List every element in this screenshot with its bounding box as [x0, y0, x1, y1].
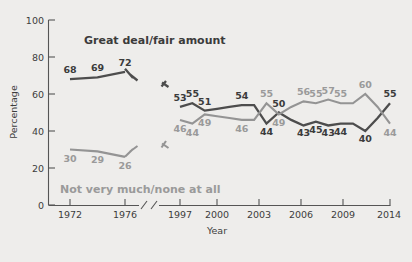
x-tick-label-2003: 2003: [247, 209, 271, 220]
series-b-annotation: Not very much/none at all: [60, 183, 221, 196]
data-label: 49: [272, 117, 285, 128]
x-axis-title: Year: [206, 225, 227, 236]
series-a-break-stub-left: [125, 69, 138, 81]
data-label: 26: [118, 160, 132, 171]
data-label: 72: [118, 57, 131, 68]
data-label: 55: [383, 88, 396, 99]
series-a-annotation: Great deal/fair amount: [84, 34, 226, 47]
x-axis-ticks: [70, 199, 390, 206]
data-label: 50: [272, 98, 286, 109]
x-tick-label-2006: 2006: [289, 209, 313, 220]
y-tick-label-100: 100: [26, 15, 44, 26]
data-label: 43: [322, 127, 335, 138]
data-label: 53: [173, 92, 186, 103]
data-label: 55: [260, 88, 273, 99]
data-label: 51: [198, 96, 211, 107]
data-label: 44: [334, 126, 348, 137]
y-tick-label-0: 0: [38, 200, 44, 211]
x-tick-label-1972: 1972: [58, 209, 82, 220]
x-tick-label-1976: 1976: [113, 209, 137, 220]
x-axis-break-mark-right: [151, 201, 157, 209]
data-label: 30: [63, 153, 77, 164]
series-break-stubs: [125, 69, 169, 157]
data-label: 55: [309, 88, 322, 99]
y-axis-ticks: [49, 20, 56, 205]
y-tick-label-80: 80: [32, 52, 44, 63]
data-label: 55: [186, 88, 199, 99]
line-chart-svg: 100 80 60 40 20 0 Percentage 1972 1976 1…: [0, 0, 412, 262]
data-label: 45: [309, 124, 322, 135]
data-label: 68: [63, 64, 77, 75]
x-axis-break-mark-left: [141, 201, 147, 209]
series-b-break-stub-left: [125, 146, 138, 157]
x-tick-label-2009: 2009: [331, 209, 355, 220]
y-tick-label-20: 20: [32, 163, 44, 174]
x-tick-label-1997: 1997: [168, 209, 192, 220]
series-a-break-stub-right: [162, 81, 169, 87]
chart-container: 100 80 60 40 20 0 Percentage 1972 1976 1…: [0, 0, 412, 262]
data-label: 54: [235, 90, 249, 101]
data-label: 49: [198, 117, 211, 128]
data-label: 69: [91, 62, 104, 73]
x-tick-label-2014: 2014: [377, 209, 401, 220]
data-label: 40: [359, 133, 373, 144]
series-layer: [70, 72, 390, 157]
data-label: 43: [297, 127, 310, 138]
x-tick-label-2000: 2000: [205, 209, 229, 220]
data-label: 60: [359, 79, 373, 90]
data-label: 46: [235, 123, 249, 134]
data-label: 29: [91, 154, 104, 165]
data-label: 44: [383, 127, 397, 138]
y-tick-label-60: 60: [32, 89, 44, 100]
y-tick-label-40: 40: [32, 126, 44, 137]
data-label: 57: [322, 85, 335, 96]
series-b-break-stub-right: [162, 141, 169, 148]
data-label: 55: [334, 88, 347, 99]
y-axis-title: Percentage: [8, 85, 19, 139]
